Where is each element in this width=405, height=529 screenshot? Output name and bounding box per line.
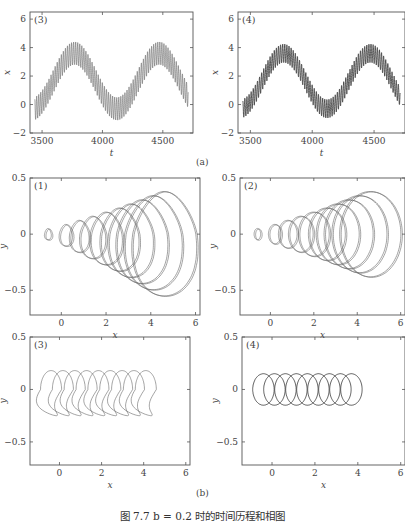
x-tick-label: 4000: [91, 136, 114, 146]
x-tick-label: 3500: [239, 136, 262, 146]
phase-loop: [46, 229, 53, 240]
x-tick-label: 0: [269, 468, 275, 478]
phase-loop: [341, 192, 402, 277]
y-tick-label: 0: [20, 384, 26, 394]
panel-b3-plot: 0246−0.500.5xy(3): [0, 330, 205, 490]
x-tick-label: 6: [398, 468, 404, 478]
data-curves: [44, 192, 198, 297]
x-tick-label: 4500: [151, 136, 174, 146]
plot-area: 350040004500−20246tx(3): [2, 12, 193, 158]
x-tick-label: 4000: [301, 136, 324, 146]
x-tick-label: 6: [398, 318, 404, 328]
phase-loop: [91, 213, 124, 266]
axes-frame: [240, 178, 405, 315]
panel-number-label: (1): [34, 180, 47, 191]
y-tick-label: −0.5: [216, 437, 238, 447]
y-tick-label: 0: [230, 229, 236, 239]
time-history-curve: [243, 44, 400, 118]
phase-loop: [268, 224, 281, 244]
x-tick-label: 2: [311, 318, 317, 328]
y-tick-label: −2: [221, 128, 234, 138]
x-axis-label: x: [321, 480, 326, 490]
y-tick-label: 0.5: [12, 332, 27, 342]
phase-loop: [340, 192, 401, 277]
phase-loop: [36, 371, 61, 416]
plot-area: 0246−0.500.5xy(1): [0, 173, 200, 340]
panel-number-label: (4): [246, 339, 259, 350]
x-tick-label: 4: [355, 468, 361, 478]
phase-loop: [72, 371, 97, 416]
axes-frame: [242, 337, 405, 465]
y-tick-label: −0.5: [4, 285, 26, 295]
data-curves: [254, 192, 402, 278]
x-tick-label: 2: [312, 468, 318, 478]
phase-loop: [324, 200, 373, 269]
x-axis-label: x: [107, 480, 112, 490]
phase-loop: [132, 192, 197, 296]
y-tick-label: 4: [228, 43, 234, 53]
y-axis-label: y: [0, 398, 8, 405]
phase-loop: [254, 229, 261, 240]
x-axis-label: t: [110, 148, 114, 158]
phase-loop: [124, 196, 183, 290]
panel-a4-plot: 350040004500−20246tx(4): [205, 0, 405, 150]
y-tick-label: 0: [228, 100, 234, 110]
phase-loop: [59, 224, 72, 246]
panel-number-label: (3): [34, 14, 47, 25]
phase-loop: [256, 229, 263, 240]
phase-loop: [119, 371, 144, 416]
data-curves: [35, 42, 188, 120]
phase-loop: [131, 371, 156, 416]
y-axis-label: y: [208, 243, 218, 250]
x-tick-label: 4: [148, 318, 154, 328]
y-tick-label: 0.5: [12, 173, 27, 183]
y-tick-label: 0.5: [222, 173, 237, 183]
x-tick-label: 0: [57, 468, 63, 478]
phase-loop: [60, 371, 85, 416]
x-tick-label: 4: [354, 318, 360, 328]
x-tick-label: 0: [268, 318, 274, 328]
data-curves: [243, 44, 400, 118]
panel-number-label: (2): [244, 180, 257, 191]
x-tick-label: 3500: [31, 136, 54, 146]
x-tick-label: 4: [141, 468, 147, 478]
phase-loop: [108, 371, 133, 416]
y-axis-label: y: [210, 398, 220, 405]
panel-b1-plot: 0246−0.500.5xy(1): [0, 170, 205, 330]
figure-caption: 图 7.7 b = 0.2 时的时间历程和相图: [0, 508, 405, 523]
y-tick-label: 0: [20, 229, 26, 239]
y-tick-label: −2: [13, 128, 26, 138]
y-tick-label: 6: [20, 14, 26, 24]
phase-loop: [48, 371, 73, 416]
panel-a4: 350040004500−20246tx(4): [205, 0, 405, 150]
y-tick-label: 0.5: [224, 332, 239, 342]
phase-loop: [61, 225, 74, 247]
plot-area: 0246−0.500.5xy(4): [210, 332, 405, 490]
plot-area: 350040004500−20246tx(4): [210, 12, 405, 158]
panel-a3-plot: 350040004500−20246tx(3): [0, 0, 200, 150]
subfigure-b-label: (b): [196, 488, 209, 498]
plot-area: 0246−0.500.5xy(2): [208, 173, 405, 340]
subfigure-a-label: (a): [196, 157, 208, 167]
phase-loop: [96, 371, 121, 416]
y-tick-label: −0.5: [214, 285, 236, 295]
phase-loop: [300, 213, 331, 257]
y-tick-label: 2: [20, 71, 26, 81]
panel-b2: 0246−0.500.5xy(2): [205, 170, 405, 330]
phase-loop: [84, 371, 109, 416]
x-tick-label: 6: [193, 318, 199, 328]
time-history-curve: [35, 42, 188, 120]
panel-b4: 0246−0.500.5xy(4): [205, 330, 405, 490]
axes-frame: [30, 178, 200, 315]
x-tick-label: 2: [103, 318, 109, 328]
x-tick-label: 4500: [363, 136, 386, 146]
panel-b3: 0246−0.500.5xy(3): [0, 330, 205, 490]
y-tick-label: −0.5: [4, 437, 26, 447]
y-tick-label: 4: [20, 43, 26, 53]
x-axis-label: t: [320, 148, 324, 158]
y-tick-label: 2: [228, 71, 234, 81]
x-tick-label: 0: [58, 318, 64, 328]
data-curves: [36, 371, 156, 416]
y-axis-label: x: [2, 70, 12, 75]
y-tick-label: 0: [20, 100, 26, 110]
